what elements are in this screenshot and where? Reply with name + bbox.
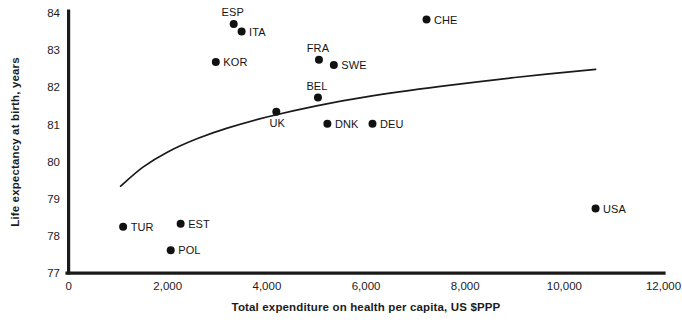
x-tick-label: 6,000 (352, 280, 381, 292)
point-label: KOR (223, 56, 247, 68)
data-point-deu[interactable]: DEU (368, 118, 403, 130)
point-label: TUR (131, 221, 154, 233)
point-marker[interactable] (323, 120, 331, 128)
point-marker[interactable] (177, 220, 185, 228)
point-marker[interactable] (315, 56, 323, 64)
point-label: DEU (380, 118, 404, 130)
x-tick-label: 0 (65, 280, 71, 292)
point-marker[interactable] (368, 120, 376, 128)
data-point-dnk[interactable]: DNK (323, 118, 359, 130)
point-marker[interactable] (423, 16, 431, 24)
point-label: CHE (434, 14, 458, 26)
data-point-est[interactable]: EST (177, 218, 210, 230)
point-label: SWE (341, 59, 366, 71)
point-label: UK (270, 117, 286, 129)
y-tick-label: 79 (47, 193, 60, 205)
x-tick-label: 8,000 (451, 280, 480, 292)
x-tick-label: 2,000 (153, 280, 182, 292)
point-marker[interactable] (314, 94, 322, 102)
point-marker[interactable] (167, 246, 175, 254)
data-point-ita[interactable]: ITA (238, 26, 267, 38)
data-point-swe[interactable]: SWE (330, 59, 367, 71)
scatter-chart: 7778798081828384 02,0004,0006,0008,00010… (0, 0, 682, 328)
point-label: BEL (306, 80, 327, 92)
point-label: DNK (335, 118, 359, 130)
y-tick-label: 83 (47, 44, 60, 56)
data-point-bel[interactable]: BEL (306, 80, 327, 102)
data-point-uk[interactable]: UK (270, 108, 286, 129)
point-marker[interactable] (272, 108, 280, 116)
point-marker[interactable] (330, 61, 338, 69)
point-label: ITA (249, 26, 266, 38)
y-tick-label: 80 (47, 156, 60, 168)
point-marker[interactable] (230, 20, 238, 28)
x-axis-title: Total expenditure on health per capita, … (232, 301, 501, 313)
y-tick-label: 81 (47, 119, 60, 131)
data-point-usa[interactable]: USA (592, 203, 627, 215)
x-tick-label: 4,000 (253, 280, 282, 292)
y-tick-label: 84 (47, 7, 60, 19)
y-axis-title: Life expectancy at birth, years (9, 57, 21, 227)
point-label: ESP (222, 6, 244, 18)
point-label: FRA (307, 42, 330, 54)
y-tick-label: 78 (47, 230, 60, 242)
y-axis-tick-labels: 7778798081828384 (47, 7, 60, 279)
x-tick-label: 10,000 (547, 280, 582, 292)
point-label: EST (188, 218, 210, 230)
data-point-esp[interactable]: ESP (222, 6, 244, 28)
y-tick-label: 82 (47, 81, 60, 93)
data-point-tur[interactable]: TUR (119, 221, 153, 233)
point-marker[interactable] (212, 58, 220, 66)
point-marker[interactable] (592, 204, 600, 212)
y-tick-label: 77 (47, 267, 60, 279)
data-point-pol[interactable]: POL (167, 244, 201, 256)
x-axis-tick-labels: 02,0004,0006,0008,00010,00012,000 (65, 280, 681, 292)
chart-canvas: 7778798081828384 02,0004,0006,0008,00010… (0, 0, 682, 328)
x-tick-label: 12,000 (646, 280, 681, 292)
data-point-fra[interactable]: FRA (307, 42, 330, 64)
point-label: USA (603, 203, 626, 215)
data-points-group: TURESTPOLKORESPITAFRASWEBELUKDNKDEUCHEUS… (119, 6, 626, 256)
point-label: POL (178, 244, 200, 256)
point-marker[interactable] (238, 27, 246, 35)
point-marker[interactable] (119, 223, 127, 231)
data-point-kor[interactable]: KOR (212, 56, 248, 68)
data-point-che[interactable]: CHE (423, 14, 458, 26)
